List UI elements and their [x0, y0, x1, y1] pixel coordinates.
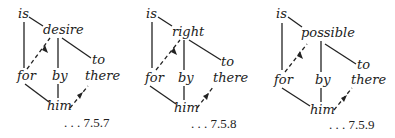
node-for: for: [144, 70, 165, 85]
edge-for-him: [150, 86, 176, 104]
node-by: by: [52, 68, 68, 83]
node-to: to: [92, 52, 105, 67]
edge-desire-to: [62, 38, 91, 58]
arrowhead-icon: [171, 47, 177, 55]
edge-is-right: [158, 17, 172, 26]
node-is: is: [276, 6, 287, 21]
node-is: is: [18, 6, 29, 21]
edge-for-him: [25, 84, 49, 102]
node-there: there: [85, 68, 121, 83]
node-for: for: [273, 72, 294, 87]
arrowhead-icon: [42, 45, 48, 53]
arrowhead-icon: [341, 95, 347, 102]
arrowhead-icon: [297, 51, 303, 59]
diagram-7-5-8: is right to for by there him . . . 7.5.8: [144, 6, 249, 131]
edge-right-to: [189, 40, 221, 60]
edge-possible-to: [325, 44, 356, 64]
diagram-number: . . . 7.5.9: [329, 117, 375, 132]
node-there: there: [213, 70, 249, 85]
node-there: there: [351, 72, 387, 87]
diagram-number: . . . 7.5.8: [191, 116, 237, 131]
edge-is-possible: [288, 17, 302, 27]
edge-is-desire: [29, 17, 43, 26]
node-predicate: possible: [301, 25, 355, 40]
node-predicate: right: [172, 24, 205, 39]
node-to: to: [357, 57, 370, 72]
node-predicate: desire: [43, 22, 84, 37]
node-to: to: [221, 54, 234, 69]
node-by: by: [178, 70, 194, 85]
node-is: is: [146, 6, 157, 21]
diagram-7-5-7: is desire to for by there him . . . 7.5.…: [16, 6, 121, 130]
node-him: him: [310, 102, 335, 117]
edge-for-possible-dashed: [285, 44, 307, 72]
node-for: for: [16, 68, 37, 83]
diagram-canvas: is desire to for by there him . . . 7.5.…: [0, 0, 395, 138]
arrowhead-icon: [77, 92, 83, 99]
node-him: him: [47, 98, 72, 113]
diagram-7-5-9: is possible to for by there him . . . 7.…: [273, 6, 387, 132]
diagram-number: . . . 7.5.7: [64, 115, 110, 130]
edge-for-him: [282, 88, 310, 106]
arrowhead-icon: [203, 93, 209, 100]
node-him: him: [174, 100, 199, 115]
node-by: by: [315, 72, 331, 87]
edge-for-desire-dashed: [27, 38, 50, 69]
edge-for-right-dashed: [156, 40, 180, 70]
